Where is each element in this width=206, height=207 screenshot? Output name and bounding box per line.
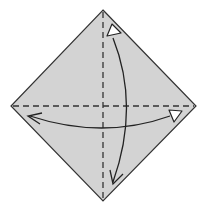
diagram-canvas bbox=[0, 0, 206, 207]
origami-diagram bbox=[0, 0, 206, 207]
